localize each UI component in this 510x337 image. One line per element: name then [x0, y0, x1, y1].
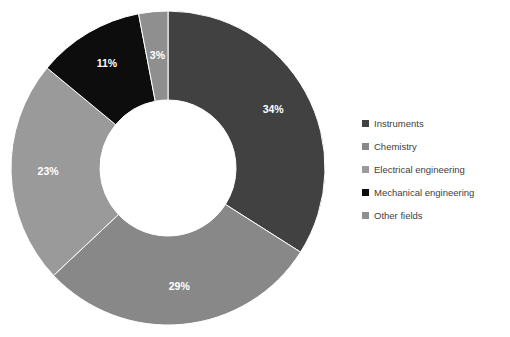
legend-item[interactable]: Mechanical engineering: [362, 181, 510, 204]
legend-item-label: Electrical engineering: [374, 165, 465, 175]
legend-item[interactable]: Chemistry: [362, 135, 510, 158]
legend-swatch-icon: [362, 143, 369, 150]
legend-item[interactable]: Instruments: [362, 112, 510, 135]
donut-chart-svg: 34%29%23%11%3%: [0, 0, 340, 337]
slice-percentage-label: 29%: [169, 280, 191, 292]
legend-swatch-icon: [362, 120, 369, 127]
legend-swatch-icon: [362, 166, 369, 173]
legend-swatch-icon: [362, 189, 369, 196]
legend-item[interactable]: Electrical engineering: [362, 158, 510, 181]
legend-item-label: Chemistry: [374, 142, 417, 152]
legend-item-label: Instruments: [374, 119, 424, 129]
legend-item-label: Other fields: [374, 211, 423, 221]
legend-item-label: Mechanical engineering: [374, 188, 474, 198]
legend-item[interactable]: Other fields: [362, 204, 510, 227]
legend-swatch-icon: [362, 212, 369, 219]
slice-percentage-label: 34%: [263, 103, 285, 115]
donut-slice[interactable]: [168, 11, 325, 252]
slice-percentage-label: 23%: [38, 165, 60, 177]
slice-percentage-label: 11%: [97, 57, 118, 69]
chart-legend: InstrumentsChemistryElectrical engineeri…: [362, 112, 510, 227]
slice-percentage-label: 3%: [150, 49, 166, 61]
donut-chart: 34%29%23%11%3%: [0, 0, 340, 337]
